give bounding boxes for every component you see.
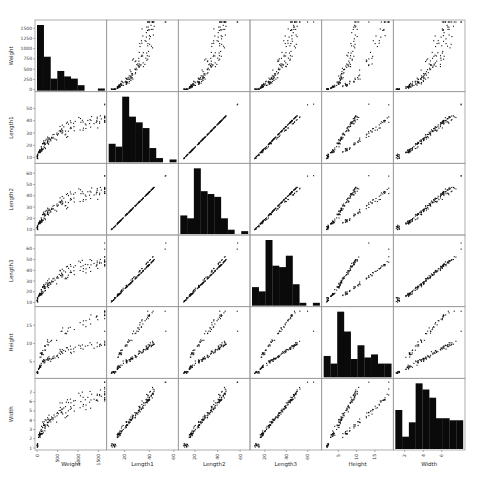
data-point [68,327,69,328]
data-point [293,348,294,349]
cell-height-vs-height [322,307,394,379]
histogram-bar [57,71,64,91]
data-point [143,270,144,271]
data-point [224,29,225,30]
data-point [48,426,49,427]
data-point [217,40,218,41]
data-point [123,360,124,361]
data-point [213,28,214,29]
data-point [345,151,346,152]
cell-frame [393,235,465,307]
data-point [345,294,346,295]
data-point [48,356,49,357]
data-point [430,276,431,277]
data-point [435,198,436,199]
data-point [214,55,215,56]
y-tick-label: 15 [26,323,32,328]
data-point [222,342,223,343]
y-tick-label: 50 [26,257,32,262]
data-point [346,67,347,68]
data-point [43,292,44,293]
data-point [258,444,259,445]
data-point [115,371,116,372]
data-point [104,400,105,401]
data-point [353,213,354,214]
data-point [221,29,222,30]
data-point [119,221,120,222]
data-point [360,212,361,213]
data-point [355,21,356,22]
data-point [445,264,446,265]
cell-length3-vs-height [322,235,394,307]
data-point [293,394,294,395]
data-point [381,400,382,401]
data-point [225,391,226,392]
x-tick-label: 20 [192,454,197,460]
data-point [97,319,98,320]
data-point [219,53,220,54]
data-point [220,26,221,27]
data-point [104,314,105,315]
data-point [415,215,416,216]
data-point [381,21,382,22]
cell-width-vs-height [322,378,394,450]
data-point [145,405,146,406]
data-point [85,199,86,200]
data-point [419,284,420,285]
data-point [340,212,341,213]
data-point [426,357,427,358]
data-point [207,61,208,62]
data-point [347,127,348,128]
data-point [415,82,416,83]
data-point [207,357,208,358]
data-point [100,389,101,390]
data-point [454,311,455,312]
histogram-bar [385,364,392,378]
y-axis-label-length3: Length3 [8,259,15,282]
data-point [291,21,292,22]
data-point [427,58,428,59]
data-point [101,190,102,191]
data-point [345,221,346,222]
data-point [284,128,285,129]
data-point [129,79,130,80]
data-point [441,37,442,38]
data-point [289,45,290,46]
data-point [189,152,190,153]
data-point [358,387,359,388]
data-point [349,218,350,219]
data-point [43,214,44,215]
data-point [43,361,44,362]
data-point [416,289,417,290]
data-point [210,412,211,413]
data-point [379,40,380,41]
data-point [352,193,353,194]
data-point [184,157,185,158]
data-point [353,215,354,216]
data-point [285,352,286,353]
data-point [115,297,116,298]
data-point [353,56,354,57]
data-point [43,432,44,433]
histogram-bar [358,345,365,377]
data-point [223,345,224,346]
data-point [218,60,219,61]
data-point [221,120,222,121]
data-point [71,199,72,200]
histogram-bar [51,79,58,91]
data-point [201,359,202,360]
data-point [293,32,294,33]
data-point [279,64,280,65]
data-point [141,272,142,273]
data-point [313,21,314,22]
data-point [62,269,63,270]
data-point [48,283,49,284]
data-point [47,422,48,423]
data-point [412,350,413,351]
data-point [435,127,436,128]
data-point [151,46,152,47]
cell-length1-vs-length3 [250,92,322,164]
data-point [273,138,274,139]
data-point [189,88,190,89]
data-point [205,417,206,418]
